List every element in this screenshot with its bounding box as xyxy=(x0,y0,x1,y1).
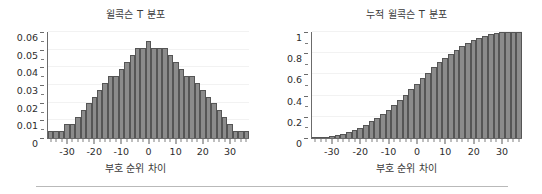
x-tick-minor xyxy=(348,139,349,142)
y-tick-mark xyxy=(40,138,44,139)
y-axis-labels-cdf: 00.20.40.60.81 xyxy=(271,32,308,138)
y-tick-minor xyxy=(41,94,44,95)
x-tick-mark xyxy=(445,139,446,144)
wilcoxon-distribution-figure: 윌콕슨 T 분포 00.010.020.030.040.050.06 -30-2… xyxy=(0,0,542,194)
plot-area-cdf xyxy=(312,32,522,138)
chart-panel-cdf: 누적 윌콕슨 T 분포 00.20.40.60.81 -30-20-100102… xyxy=(271,0,542,176)
y-tick-mark xyxy=(304,53,308,54)
x-tick-minor xyxy=(326,139,327,142)
y-tick-mark xyxy=(304,138,308,139)
y-tick-minor xyxy=(305,43,308,44)
x-tick-minor xyxy=(462,139,463,142)
x-tick-minor xyxy=(490,139,491,142)
x-tick-label: 30 xyxy=(496,146,508,157)
x-tick-minor xyxy=(337,139,338,142)
y-tick-mark xyxy=(304,74,308,75)
x-tick-minor xyxy=(170,139,171,142)
x-tick-minor xyxy=(235,139,236,142)
y-tick-mark xyxy=(40,85,44,86)
y-tick-minor xyxy=(41,41,44,42)
x-tick-minor xyxy=(56,139,57,142)
y-tick-label: 0.2 xyxy=(287,117,302,118)
x-axis-labels-cdf: -30-20-100102030 xyxy=(312,146,522,160)
x-tick-minor xyxy=(456,139,457,142)
x-tick-minor xyxy=(105,139,106,142)
x-tick-minor xyxy=(83,139,84,142)
x-tick-minor xyxy=(246,139,247,142)
x-tick-minor xyxy=(439,139,440,142)
chart-title-pdf: 윌콕슨 T 분포 xyxy=(0,6,271,21)
x-tick-mark xyxy=(229,139,230,144)
x-tick-minor xyxy=(132,139,133,142)
x-tick-minor xyxy=(240,139,241,142)
y-tick-mark xyxy=(304,96,308,97)
bar-series-cdf xyxy=(312,32,522,138)
x-tick-minor xyxy=(143,139,144,142)
y-tick-mark xyxy=(40,67,44,68)
x-tick-minor xyxy=(115,139,116,142)
x-tick-minor xyxy=(365,139,366,142)
x-tick-minor xyxy=(110,139,111,142)
x-tick-label: -10 xyxy=(114,146,130,157)
x-tick-label: -30 xyxy=(324,146,340,157)
y-tick-label: 0.05 xyxy=(17,49,38,50)
x-tick-minor xyxy=(314,139,315,142)
y-tick-minor xyxy=(41,59,44,60)
x-tick-mark xyxy=(148,139,149,144)
x-tick-minor xyxy=(224,139,225,142)
x-tick-mark xyxy=(473,139,474,144)
x-tick-mark xyxy=(94,139,95,144)
x-tick-minor xyxy=(343,139,344,142)
x-tick-minor xyxy=(382,139,383,142)
x-tick-minor xyxy=(88,139,89,142)
y-tick-label: 0.03 xyxy=(17,85,38,86)
x-tick-minor xyxy=(208,139,209,142)
y-tick-minor xyxy=(305,106,308,107)
x-tick-minor xyxy=(507,139,508,142)
x-tick-minor xyxy=(186,139,187,142)
x-tick-mark xyxy=(121,139,122,144)
chart-title-cdf: 누적 윌콕슨 T 분포 xyxy=(271,6,542,21)
x-tick-label: 20 xyxy=(468,146,480,157)
y-tick-label: 0 xyxy=(32,138,38,139)
x-tick-mark xyxy=(360,139,361,144)
x-tick-minor xyxy=(405,139,406,142)
x-tick-label: -20 xyxy=(86,146,102,157)
x-tick-minor xyxy=(213,139,214,142)
x-tick-mark xyxy=(67,139,68,144)
y-tick-label: 0 xyxy=(296,138,302,139)
x-axis-title-cdf: 부호 순위 차이 xyxy=(271,160,542,175)
chart-panel-pdf: 윌콕슨 T 분포 00.010.020.030.040.050.06 -30-2… xyxy=(0,0,271,176)
x-axis-title-pdf: 부호 순위 차이 xyxy=(0,160,271,175)
bar xyxy=(244,131,249,138)
x-tick-minor xyxy=(191,139,192,142)
x-tick-minor xyxy=(468,139,469,142)
y-tick-label: 0.02 xyxy=(17,102,38,103)
x-tick-mark xyxy=(388,139,389,144)
y-tick-minor xyxy=(305,127,308,128)
x-tick-minor xyxy=(320,139,321,142)
x-tick-minor xyxy=(181,139,182,142)
y-tick-label: 0.8 xyxy=(287,53,302,54)
x-axis-ticks-cdf xyxy=(312,139,522,145)
x-tick-label: 10 xyxy=(439,146,451,157)
y-tick-minor xyxy=(305,85,308,86)
y-tick-mark xyxy=(304,117,308,118)
bar xyxy=(516,32,522,138)
y-tick-label: 1 xyxy=(296,32,302,33)
x-tick-mark xyxy=(175,139,176,144)
y-tick-minor xyxy=(41,129,44,130)
x-tick-mark xyxy=(331,139,332,144)
x-tick-minor xyxy=(219,139,220,142)
x-tick-minor xyxy=(422,139,423,142)
footer-divider xyxy=(36,186,508,187)
x-tick-minor xyxy=(50,139,51,142)
x-tick-minor xyxy=(153,139,154,142)
x-tick-label: -30 xyxy=(59,146,75,157)
x-tick-label: 10 xyxy=(170,146,182,157)
x-tick-minor xyxy=(72,139,73,142)
y-tick-label: 0.04 xyxy=(17,67,38,68)
x-tick-mark xyxy=(417,139,418,144)
x-tick-minor xyxy=(451,139,452,142)
x-tick-minor xyxy=(354,139,355,142)
